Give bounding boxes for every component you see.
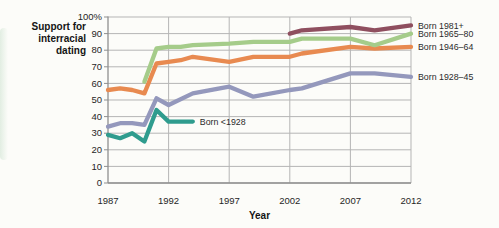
y-tick-label: 50 xyxy=(91,94,102,105)
series-label: Born 1981+ xyxy=(418,21,464,31)
x-tick-label: 1992 xyxy=(158,195,179,206)
chart-figure: Support for interracial dating 100%90807… xyxy=(0,0,499,228)
x-tick-label: 2007 xyxy=(340,195,361,206)
y-tick-label: 40 xyxy=(91,111,102,122)
x-tick-label: 1997 xyxy=(219,195,240,206)
y-tick-label: 60 xyxy=(91,78,102,89)
y-tick-label: 80 xyxy=(91,44,102,55)
line-chart: 100%908070605040302010019871992199720022… xyxy=(0,0,499,228)
x-tick-label: 2012 xyxy=(400,195,421,206)
x-axis-label: Year xyxy=(108,210,411,221)
y-tick-label: 90 xyxy=(91,28,102,39)
x-tick-label: 2002 xyxy=(279,195,300,206)
y-tick-label: 70 xyxy=(91,61,102,72)
series-label: Born 1928–45 xyxy=(418,72,473,82)
y-tick-label: 30 xyxy=(91,127,102,138)
y-tick-label: 100% xyxy=(78,11,103,22)
y-tick-label: 20 xyxy=(91,144,102,155)
y-tick-label: 0 xyxy=(97,177,102,188)
y-tick-label: 10 xyxy=(91,161,102,172)
x-tick-label: 1987 xyxy=(97,195,118,206)
series-label: Born 1946–64 xyxy=(418,42,473,52)
series-label: Born <1928 xyxy=(200,117,246,127)
